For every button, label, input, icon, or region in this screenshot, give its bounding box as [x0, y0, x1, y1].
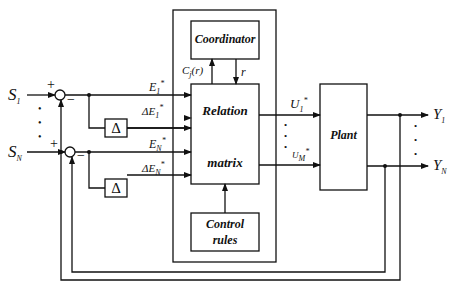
signal-e1-label: E1* — [149, 80, 164, 96]
signal-cj-label: Cj(r) — [182, 65, 203, 79]
input-s1-label: S1 — [8, 86, 21, 106]
input-sn-label: SN — [8, 143, 22, 163]
ellipsis-dot: • — [414, 136, 417, 145]
ellipsis-dot: • — [284, 121, 287, 130]
signal-r-label: r — [241, 66, 246, 78]
plus-sign-n: + — [50, 137, 58, 151]
signal-den-label: ΔEN* — [142, 161, 165, 177]
signal-de1-label: ΔE1* — [142, 104, 163, 120]
ellipsis-dot: • — [38, 104, 42, 114]
signal-en-label: EN* — [149, 137, 166, 153]
fuzzy-control-block-diagram: S1 SN • • • + − + − E1* ΔE1* EN* ΔEN* Cj… — [0, 0, 453, 289]
minus-sign-n: − — [77, 149, 85, 163]
output-y1-label: Y1 — [433, 107, 445, 125]
delta-block-1-label: Δ — [105, 119, 127, 137]
ellipsis-dot: • — [38, 132, 42, 142]
plant-label: Plant — [320, 129, 367, 143]
relation-matrix-label-top: Relation — [191, 104, 259, 119]
ellipsis-dot: • — [284, 132, 287, 141]
signal-u1-label: U1* — [290, 97, 307, 114]
ellipsis-dot: • — [414, 150, 417, 159]
control-rules-label-2: rules — [191, 234, 259, 248]
relation-matrix-label-bottom: matrix — [191, 156, 259, 171]
ellipsis-dot: • — [414, 122, 417, 131]
signal-um-label: UM* — [292, 148, 309, 163]
ellipsis-dot: • — [38, 118, 42, 128]
output-yn-label: YN — [433, 158, 447, 176]
minus-sign-1: − — [67, 93, 75, 107]
plus-sign-1: + — [47, 78, 55, 92]
coordinator-label: Coordinator — [191, 33, 259, 47]
ellipsis-dot: • — [284, 143, 287, 152]
delta-block-n-label: Δ — [105, 179, 127, 197]
control-rules-label-1: Control — [191, 218, 259, 232]
